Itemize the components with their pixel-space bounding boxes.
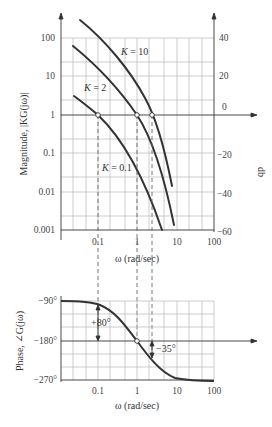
label-k01: K = 0.1 <box>101 162 132 173</box>
db-tick-20: 20 <box>219 71 229 81</box>
label-k10: K = 10 <box>120 46 148 57</box>
phase-axes <box>61 296 257 382</box>
phase-tick-neg180: −180° <box>34 336 58 346</box>
db-tick-0: 0 <box>222 102 227 112</box>
phase-margin-minus35-label: −35° <box>156 343 176 354</box>
phase-xtick-1: 1 <box>135 386 140 396</box>
db-tick-neg20: −20 <box>217 150 232 160</box>
mag-tick-0.01: 0.01 <box>38 187 55 197</box>
db-tick-40: 40 <box>219 33 229 43</box>
mag-tick-1: 1 <box>50 110 55 120</box>
phase-tick-neg90: −90° <box>38 296 57 306</box>
mag-xtick-10: 10 <box>172 237 182 247</box>
mag-xtick-100: 100 <box>207 237 222 247</box>
phase-plot: −90° −180° −270° 0.1 1 10 100 Phase, ∠G(… <box>14 296 257 412</box>
bode-plot-figure: 100 10 1 0.1 0.01 0.001 40 20 0 −20 −40 … <box>0 0 272 427</box>
phase-margin-plus80-label: +80° <box>91 317 111 328</box>
magnitude-grid <box>61 38 214 230</box>
db-tick-neg60: −60 <box>217 227 232 237</box>
mag-tick-0.001: 0.001 <box>34 225 56 235</box>
phase-xtick-10: 10 <box>172 386 182 396</box>
mag-tick-100: 100 <box>41 33 56 43</box>
phase-xtick-100: 100 <box>207 386 222 396</box>
label-k2: K = 2 <box>83 82 106 93</box>
db-ylabel: db <box>256 167 267 177</box>
phase-ylabel: Phase, ∠G(jω) <box>14 311 26 371</box>
phase-crossover-marker <box>135 339 140 344</box>
phase-tick-neg270: −270° <box>34 375 58 385</box>
curve-k2 <box>73 46 174 225</box>
db-tick-neg40: −40 <box>217 189 232 199</box>
phase-margin-minus35-arrow <box>150 341 154 358</box>
phase-xtick-0.1: 0.1 <box>92 386 104 396</box>
mag-tick-10: 10 <box>46 71 56 81</box>
phase-xlabel: ω (rad/sec) <box>115 400 159 412</box>
magnitude-ylabel: Magnitude, |KG(jω)| <box>18 93 30 176</box>
mag-tick-0.1: 0.1 <box>43 148 55 158</box>
